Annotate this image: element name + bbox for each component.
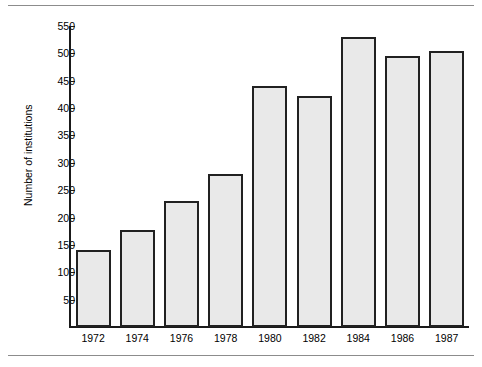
x-axis-tick-label: 1980 — [248, 332, 292, 344]
x-axis-tick-label: 1974 — [115, 332, 159, 344]
bar-1978 — [208, 174, 243, 327]
bar-chart-plot: Number of institutions 50100150200250300… — [0, 0, 482, 367]
bar-1984 — [341, 37, 376, 327]
x-axis-tick-label: 1986 — [380, 332, 424, 344]
bar-1982 — [297, 96, 332, 327]
bar-1980 — [252, 86, 287, 327]
bar-group — [0, 0, 482, 367]
x-axis-tick-label: 1987 — [425, 332, 469, 344]
bar-1987 — [429, 51, 464, 327]
x-axis-tick-label: 1972 — [71, 332, 115, 344]
bar-1974 — [120, 230, 155, 327]
x-axis-tick-label: 1982 — [292, 332, 336, 344]
x-axis-tick-label: 1984 — [336, 332, 380, 344]
figure-container: Number of institutions 50100150200250300… — [0, 0, 482, 367]
x-axis-tick-label: 1976 — [159, 332, 203, 344]
bar-1976 — [164, 201, 199, 327]
bar-1986 — [385, 56, 420, 327]
bar-1972 — [76, 250, 111, 327]
x-axis-tick-label: 1978 — [204, 332, 248, 344]
